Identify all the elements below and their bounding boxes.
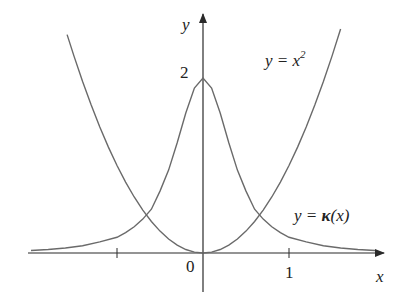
parabola-annotation: y = x2 [265,52,306,69]
plot-area [0,0,408,305]
x-axis-label: x [376,268,384,285]
x-tick-1-label: 1 [285,264,294,281]
parabola-annotation-text: y = x [265,51,300,70]
kappa-symbol: κ [322,206,331,225]
kappa-annotation: y = κ(x) [294,207,349,224]
curvature-figure: y x 0 1 2 y = x2 y = κ(x) [0,0,408,305]
y-axis-label: y [182,16,190,33]
kappa-annotation-prefix: y = [294,206,322,225]
parabola-annotation-exponent: 2 [300,48,306,60]
kappa-annotation-arg: (x) [331,206,350,225]
y-tick-2-label: 2 [180,64,189,81]
origin-label: 0 [186,258,195,275]
